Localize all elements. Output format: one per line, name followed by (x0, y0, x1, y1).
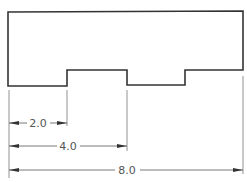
part-outline (8, 11, 243, 86)
dimension-2: 2.0 (9, 117, 67, 130)
technical-drawing: 2.0 4.0 8.0 (0, 0, 247, 182)
dimension-8: 8.0 (9, 164, 243, 177)
arrow-left-icon (9, 168, 19, 172)
arrow-right-icon (57, 121, 67, 125)
arrow-right-icon (233, 168, 243, 172)
dimension-label: 4.0 (59, 140, 77, 153)
arrow-left-icon (9, 121, 19, 125)
arrow-right-icon (117, 144, 127, 148)
dimension-label: 8.0 (118, 164, 136, 177)
dimension-label: 2.0 (29, 117, 47, 130)
dimension-4: 4.0 (9, 140, 127, 153)
arrow-left-icon (9, 144, 19, 148)
